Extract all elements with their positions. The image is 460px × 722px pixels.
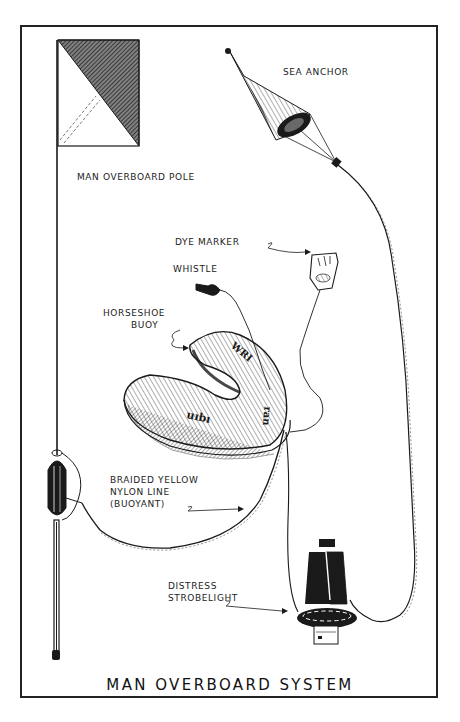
label-whistle: WHISTLE [173,263,217,275]
label-line-line3: (BUOYANT) [110,498,165,510]
sea-anchor-line [338,165,415,622]
diagram-title: MAN OVERBOARD SYSTEM [0,676,460,694]
label-sea-anchor: SEA ANCHOR [283,66,349,78]
label-man-overboard-pole: MAN OVERBOARD POLE [77,171,195,183]
label-strobe-line2: STROBELIGHT [168,592,238,604]
distress-strobelight-icon [297,539,357,644]
dye-marker-icon [290,253,338,432]
pole-float-icon [48,450,81,520]
flag-icon [58,40,139,146]
label-strobe-line1: DISTRESS [168,580,217,592]
svg-text:ran: ran [261,406,274,427]
horseshoe-buoy-icon: uıbı WRI ran [124,332,290,459]
label-dye-marker: DYE MARKER [175,236,240,248]
label-line-line2: NYLON LINE [110,486,170,498]
horseshoe-pointer [172,330,184,348]
diagram-artwork: uıbı WRI ran [0,0,460,722]
label-horseshoe-line1: HORSESHOE [103,307,165,319]
label-horseshoe-line2: BUOY [131,319,158,331]
line-pointer [188,507,238,512]
dye-marker-pointer [268,243,305,253]
label-line-line1: BRAIDED YELLOW [110,474,199,486]
